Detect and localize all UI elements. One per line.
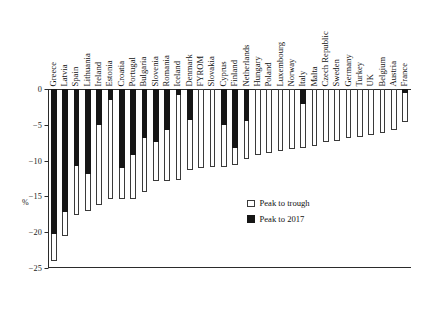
- x-axis-category-label: Romania: [162, 56, 171, 87]
- y-axis: 0−5−10−15−20−25: [0, 0, 48, 317]
- bars-container: [48, 89, 411, 268]
- bar-peak-to-2017[interactable]: [187, 89, 193, 120]
- x-axis-category-slot: France: [402, 0, 408, 87]
- x-axis-category-label: Germany: [343, 55, 352, 87]
- y-axis-tick: [45, 196, 49, 197]
- legend-label: Peak to 2017: [260, 215, 305, 224]
- bar-group[interactable]: [357, 89, 363, 268]
- bar-peak-to-2017[interactable]: [176, 89, 182, 95]
- bar-peak-to-2017[interactable]: [232, 89, 238, 148]
- bar-group[interactable]: [323, 89, 329, 268]
- bar-peak-to-2017[interactable]: [164, 89, 170, 130]
- x-axis-category-slot: UK: [368, 0, 374, 87]
- bar-group[interactable]: [96, 89, 102, 268]
- y-axis-tick-label: −25: [29, 264, 42, 273]
- bar-peak-to-trough[interactable]: [176, 89, 182, 180]
- bar-peak-to-2017[interactable]: [402, 89, 408, 93]
- legend-item[interactable]: Peak to trough: [247, 199, 310, 208]
- bar-group[interactable]: [176, 89, 182, 268]
- bar-peak-to-trough[interactable]: [346, 89, 352, 138]
- y-axis-tick-label: −15: [29, 192, 42, 201]
- bar-peak-to-2017[interactable]: [74, 89, 80, 166]
- bar-peak-to-trough[interactable]: [255, 89, 261, 155]
- bar-group[interactable]: [210, 89, 216, 268]
- bar-group[interactable]: [153, 89, 159, 268]
- x-axis-category-label: Poland: [264, 63, 273, 87]
- x-axis-category-label: Estonia: [105, 61, 114, 87]
- bar-group[interactable]: [402, 89, 408, 268]
- x-axis-category-label: Slovakia: [207, 57, 216, 87]
- bar-peak-to-trough[interactable]: [323, 89, 329, 142]
- x-axis-category-slot: Malta: [312, 0, 318, 87]
- x-axis-category-label: Hungary: [253, 57, 262, 87]
- y-axis-title: %: [22, 198, 29, 207]
- bar-group[interactable]: [198, 89, 204, 268]
- bar-group[interactable]: [300, 89, 306, 268]
- y-axis-tick: [45, 232, 49, 233]
- x-axis-category-slot: Croatia: [119, 0, 125, 87]
- bar-peak-to-trough[interactable]: [108, 89, 114, 199]
- bar-peak-to-2017[interactable]: [119, 89, 125, 168]
- bar-peak-to-trough[interactable]: [266, 89, 272, 153]
- bar-peak-to-trough[interactable]: [357, 89, 363, 137]
- bar-group[interactable]: [232, 89, 238, 268]
- bar-group[interactable]: [368, 89, 374, 268]
- bar-group[interactable]: [334, 89, 340, 268]
- bar-peak-to-2017[interactable]: [85, 89, 91, 174]
- bar-peak-to-trough[interactable]: [334, 89, 340, 141]
- bar-group[interactable]: [266, 89, 272, 268]
- bar-peak-to-2017[interactable]: [62, 89, 68, 212]
- x-axis-category-label: Netherlands: [241, 45, 250, 87]
- x-axis-category-label: Bulgaria: [139, 57, 148, 87]
- bar-peak-to-trough[interactable]: [289, 89, 295, 149]
- x-axis-category-label: FYROM: [196, 56, 205, 87]
- bar-peak-to-2017[interactable]: [142, 89, 148, 138]
- bar-group[interactable]: [244, 89, 250, 268]
- bar-peak-to-2017[interactable]: [51, 89, 57, 234]
- legend: Peak to troughPeak to 2017: [247, 199, 310, 230]
- bar-peak-to-2017[interactable]: [244, 89, 250, 121]
- bar-group[interactable]: [312, 89, 318, 268]
- bar-peak-to-trough[interactable]: [312, 89, 318, 146]
- bar-group[interactable]: [74, 89, 80, 268]
- bar-group[interactable]: [108, 89, 114, 268]
- bar-group[interactable]: [380, 89, 386, 268]
- bar-peak-to-trough[interactable]: [380, 89, 386, 133]
- x-axis-category-slot: Hungary: [255, 0, 261, 87]
- bar-group[interactable]: [130, 89, 136, 268]
- bar-group[interactable]: [62, 89, 68, 268]
- bar-peak-to-2017[interactable]: [130, 89, 136, 155]
- bar-peak-to-2017[interactable]: [221, 89, 227, 125]
- bar-group[interactable]: [278, 89, 284, 268]
- x-axis-category-label: Ireland: [94, 62, 103, 87]
- bar-peak-to-trough[interactable]: [210, 89, 216, 167]
- x-axis-category-slot: Estonia: [108, 0, 114, 87]
- bar-peak-to-2017[interactable]: [300, 89, 306, 104]
- bar-group[interactable]: [221, 89, 227, 268]
- bar-group[interactable]: [142, 89, 148, 268]
- x-axis-category-slot: Poland: [266, 0, 272, 87]
- x-axis-category-slot: Finland: [232, 0, 238, 87]
- x-axis-category-slot: Spain: [74, 0, 80, 87]
- y-axis-tick: [45, 161, 49, 162]
- x-axis-category-slot: Latvia: [62, 0, 68, 87]
- x-axis-category-label: Latvia: [60, 65, 69, 87]
- bar-group[interactable]: [85, 89, 91, 268]
- bar-group[interactable]: [51, 89, 57, 268]
- bar-group[interactable]: [391, 89, 397, 268]
- bar-group[interactable]: [187, 89, 193, 268]
- bar-peak-to-trough[interactable]: [198, 89, 204, 168]
- bar-group[interactable]: [255, 89, 261, 268]
- legend-item[interactable]: Peak to 2017: [247, 215, 310, 224]
- bar-peak-to-trough[interactable]: [368, 89, 374, 135]
- bar-peak-to-trough[interactable]: [402, 89, 408, 122]
- bar-group[interactable]: [119, 89, 125, 268]
- bar-peak-to-2017[interactable]: [96, 89, 102, 125]
- bar-group[interactable]: [289, 89, 295, 268]
- bar-peak-to-2017[interactable]: [108, 89, 114, 100]
- bar-peak-to-trough[interactable]: [391, 89, 397, 130]
- bar-group[interactable]: [346, 89, 352, 268]
- bar-group[interactable]: [164, 89, 170, 268]
- bar-peak-to-2017[interactable]: [153, 89, 159, 142]
- bar-peak-to-trough[interactable]: [278, 89, 284, 151]
